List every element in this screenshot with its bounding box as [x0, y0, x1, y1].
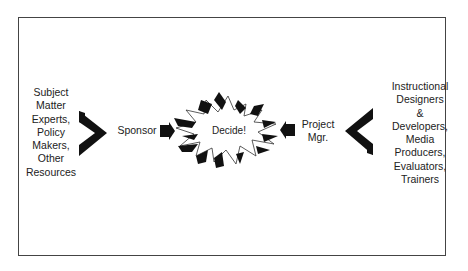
left-line: Subject [22, 86, 80, 99]
left-line: Resources [22, 166, 80, 179]
left-line: Experts, [22, 113, 80, 126]
right-line: Media [380, 133, 460, 146]
right-line: Instructional [380, 80, 460, 93]
pm-line: Mgr. [298, 131, 338, 144]
left-line: Matter [22, 99, 80, 112]
pm-arrow-icon [280, 121, 295, 139]
left-line: Other [22, 152, 80, 165]
right-line: Evaluators, [380, 160, 460, 173]
right-line: Developers, [380, 120, 460, 133]
right-line: Producers, [380, 146, 460, 159]
sponsor-label: Sponsor [112, 124, 162, 137]
sponsor-arrow-icon [160, 122, 175, 140]
left-chevron-icon [79, 111, 107, 156]
decide-label: Decide! [203, 124, 255, 137]
right-line: Trainers [380, 173, 460, 186]
right-line: Designers [380, 93, 460, 106]
right-chevron-icon [345, 108, 373, 155]
left-group-label: Subject Matter Experts, Policy Makers, O… [22, 86, 80, 179]
right-group-label: Instructional Designers & Developers, Me… [380, 80, 460, 186]
right-line: & [380, 107, 460, 120]
left-line: Makers, [22, 139, 80, 152]
left-line: Policy [22, 126, 80, 139]
project-manager-label: Project Mgr. [298, 118, 338, 145]
pm-line: Project [298, 118, 338, 131]
